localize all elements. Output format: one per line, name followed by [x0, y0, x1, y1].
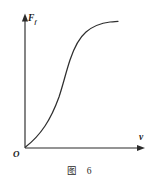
- x-axis-arrowhead-icon: [137, 145, 145, 151]
- y-axis-label-subscript: f: [35, 18, 38, 25]
- sigmoid-curve: [26, 21, 119, 147]
- x-axis-label: v: [139, 132, 144, 142]
- figure-container: F f v O 图6: [0, 0, 159, 185]
- figure-caption-number: 6: [87, 166, 92, 176]
- origin-label: O: [13, 149, 20, 159]
- physics-graph: F f v O: [0, 0, 159, 185]
- figure-caption: 图6: [0, 163, 159, 177]
- figure-caption-label: 图: [67, 163, 78, 177]
